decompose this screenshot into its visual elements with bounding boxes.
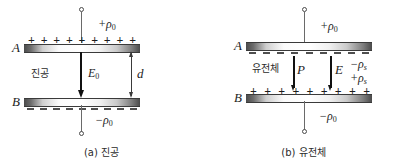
bottom-plate-b bbox=[246, 94, 372, 103]
minus-dash bbox=[117, 108, 124, 110]
top-plate-letter: A bbox=[12, 41, 20, 54]
bottom-surface-charge-label: −ρ0 bbox=[95, 114, 113, 128]
minus-dash bbox=[104, 108, 111, 110]
top-plate-a bbox=[24, 44, 140, 53]
minus-dash bbox=[334, 52, 341, 54]
medium-label: 유전체 bbox=[252, 64, 279, 74]
minus-dash bbox=[79, 108, 86, 110]
panel-vacuum: +ρ0 + + + + + + + + + A 진공 E0 d B bbox=[0, 0, 203, 166]
bound-negative-charge-label: −ρs bbox=[350, 58, 367, 72]
minus-dash bbox=[348, 52, 355, 54]
minus-dash bbox=[306, 52, 313, 54]
minus-dash bbox=[362, 52, 369, 54]
minus-dash bbox=[66, 108, 73, 110]
gap-dimension-shaft bbox=[131, 52, 132, 96]
bottom-plate-letter: B bbox=[234, 91, 242, 104]
field-arrow-head bbox=[78, 90, 84, 98]
top-lead-wire bbox=[304, 12, 305, 44]
bottom-terminal-circle bbox=[79, 131, 84, 136]
minus-dash bbox=[40, 108, 47, 110]
field-arrow-shaft bbox=[330, 56, 332, 88]
bottom-plate-letter: B bbox=[12, 95, 20, 108]
panel-caption: (b) 유전체 bbox=[202, 148, 405, 158]
minus-dash bbox=[27, 108, 34, 110]
minus-dash bbox=[91, 108, 98, 110]
bottom-terminal-circle bbox=[302, 129, 307, 134]
gap-label: d bbox=[137, 67, 144, 80]
bottom-plate-b bbox=[24, 98, 140, 107]
medium-label: 진공 bbox=[31, 69, 49, 79]
field-label: E bbox=[335, 63, 343, 76]
top-plate-minus-signs bbox=[249, 52, 369, 54]
field-label: E0 bbox=[88, 67, 99, 81]
top-surface-charge-label: +ρ0 bbox=[98, 18, 116, 32]
bottom-surface-charge-label: −ρ0 bbox=[319, 110, 337, 124]
polarization-label: P bbox=[297, 63, 305, 76]
physics-figure: +ρ0 + + + + + + + + + A 진공 E0 d B bbox=[0, 0, 405, 166]
field-arrow-shaft bbox=[80, 52, 82, 93]
bottom-plate-minus-signs bbox=[27, 108, 137, 110]
minus-dash bbox=[263, 52, 270, 54]
panel-caption: (a) 진공 bbox=[0, 148, 203, 158]
top-plate-a bbox=[246, 42, 372, 51]
bottom-lead-wire bbox=[81, 105, 82, 132]
minus-dash bbox=[249, 52, 256, 54]
minus-dash bbox=[130, 108, 137, 110]
panel-dielectric: +ρ0 A 유전체 P E −ρs +ρs + + + + bbox=[202, 0, 405, 166]
top-surface-charge-label: +ρ0 bbox=[320, 20, 338, 34]
minus-dash bbox=[277, 52, 284, 54]
minus-dash bbox=[291, 52, 298, 54]
top-plate-letter: A bbox=[234, 39, 242, 52]
bottom-lead-wire bbox=[304, 101, 305, 130]
gap-dimension-head-top bbox=[129, 51, 133, 57]
minus-dash bbox=[320, 52, 327, 54]
minus-dash bbox=[53, 108, 60, 110]
